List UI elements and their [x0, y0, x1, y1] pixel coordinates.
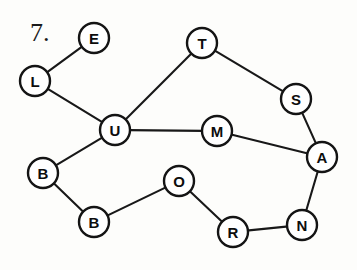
node-label: O — [173, 173, 185, 190]
graph-node-e[interactable]: E — [79, 23, 109, 53]
graph-node-b2[interactable]: B — [79, 207, 109, 237]
node-label: R — [228, 224, 239, 241]
graph-edge — [128, 130, 203, 131]
problem-number-label: 7. — [30, 18, 50, 47]
graph-edge — [47, 88, 104, 123]
node-label: S — [291, 91, 301, 108]
graph-edge — [46, 46, 83, 73]
graph-edge — [125, 53, 193, 121]
graph-figure-page: ELTSUMABOBRN 7. — [0, 0, 357, 270]
node-label: U — [110, 122, 121, 139]
graph-edge — [55, 137, 104, 166]
graph-edge — [230, 134, 309, 154]
node-label: B — [89, 214, 100, 231]
graph-node-b1[interactable]: B — [28, 158, 58, 188]
graph-edge — [246, 226, 288, 230]
graph-node-n[interactable]: N — [287, 210, 317, 240]
node-label: T — [197, 35, 206, 52]
node-label: E — [89, 30, 99, 47]
edges-layer — [46, 46, 318, 231]
graph-node-t[interactable]: T — [187, 28, 217, 58]
graph-edge — [53, 182, 85, 212]
node-label: M — [211, 123, 224, 140]
node-label: B — [38, 165, 49, 182]
graph-edge — [214, 50, 285, 92]
node-label: A — [317, 149, 328, 166]
graph-node-r[interactable]: R — [218, 217, 248, 247]
graph-node-o[interactable]: O — [164, 166, 194, 196]
node-label: N — [297, 217, 308, 234]
node-label: L — [30, 73, 39, 90]
graph-node-m[interactable]: M — [202, 116, 232, 146]
graph-edge — [189, 190, 223, 222]
graph-edge — [106, 187, 167, 216]
graph-node-u[interactable]: U — [100, 115, 130, 145]
graph-diagram: ELTSUMABOBRN 7. — [0, 0, 357, 270]
graph-node-a[interactable]: A — [307, 142, 337, 172]
graph-node-l[interactable]: L — [20, 66, 50, 96]
graph-edge — [306, 170, 318, 212]
graph-node-s[interactable]: S — [281, 84, 311, 114]
graph-edge — [302, 111, 317, 144]
